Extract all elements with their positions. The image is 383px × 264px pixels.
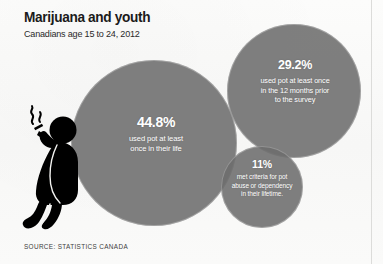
desc-abuse-dependency-line3: in their lifetime. [215,190,309,199]
infographic-canvas: Marijuana and youth Canadians age 15 to … [0,0,383,264]
value-past-year-use: 29.2% [237,57,353,74]
value-lifetime-use: 44.8% [104,113,208,132]
desc-lifetime-use-line2: once in their life [104,144,208,154]
source-note: SOURCE: STATISTICS CANADA [24,243,128,250]
label-abuse-dependency: 11% met criteria for pot abuse or depend… [215,157,309,199]
desc-past-year-use-line3: to the survey [237,95,353,105]
value-abuse-dependency: 11% [215,157,309,171]
label-lifetime-use: 44.8% used pot at least once in their li… [104,113,208,154]
desc-past-year-use-line1: used pot at least once [237,76,353,86]
smoking-person-silhouette-icon [12,104,96,232]
label-past-year-use: 29.2% used pot at least once in the 12 m… [237,57,353,105]
desc-abuse-dependency-line1: met criteria for pot [215,173,309,182]
desc-lifetime-use-line1: used pot at least [104,134,208,144]
desc-past-year-use-line2: in the 12 months prior [237,86,353,96]
